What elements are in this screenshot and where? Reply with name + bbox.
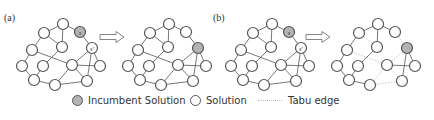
solution-node — [353, 61, 364, 72]
solution-node — [372, 42, 383, 53]
solution-node — [248, 28, 259, 39]
solution-node — [181, 27, 192, 38]
solution-node — [156, 80, 167, 91]
solution-node — [382, 60, 393, 71]
solution-node — [39, 28, 50, 39]
solution-node — [390, 27, 401, 38]
solution-node — [397, 76, 408, 87]
graph-b-before: ss' — [226, 19, 315, 91]
panel-label-a: (a) — [4, 12, 15, 23]
solution-node — [50, 80, 61, 91]
solution-node — [133, 45, 144, 56]
solution-node — [238, 75, 249, 86]
solution-node — [188, 76, 199, 87]
solution-node — [27, 45, 38, 56]
solution-node — [164, 19, 175, 30]
node-label: s' — [299, 45, 304, 52]
legend-item-solution: Solution — [190, 95, 247, 106]
node-label: s' — [90, 45, 95, 52]
transition-arrow-icon — [306, 32, 330, 43]
graph-a-after — [123, 19, 212, 91]
solution-node — [266, 42, 277, 53]
solution-node — [173, 60, 184, 71]
transition-arrow-icon — [100, 32, 124, 43]
solution-node — [410, 61, 421, 72]
solution-node — [67, 60, 78, 71]
graph-b-after — [332, 19, 421, 91]
solution-node — [163, 42, 174, 53]
solution-node — [58, 19, 69, 30]
solution-node — [226, 61, 237, 72]
solution-node — [144, 61, 155, 72]
solution-node — [259, 80, 270, 91]
solution-node — [342, 45, 353, 56]
solution-node — [95, 61, 106, 72]
legend-label-tabu: Tabu edge — [288, 95, 339, 106]
solution-node — [236, 45, 247, 56]
incumbent-node — [193, 43, 204, 54]
solution-node — [291, 76, 302, 87]
solution-node — [267, 19, 278, 30]
solution-node — [17, 61, 28, 72]
solution-node — [365, 80, 376, 91]
incumbent-node-icon — [72, 95, 83, 106]
solution-node — [373, 19, 384, 30]
solution-node — [135, 75, 146, 86]
solution-node — [38, 61, 49, 72]
solution-node — [354, 28, 365, 39]
solution-node — [304, 61, 315, 72]
solution-node — [123, 61, 134, 72]
solution-node — [82, 76, 93, 87]
solution-node — [57, 42, 68, 53]
solution-node — [276, 60, 287, 71]
legend-item-tabu: Tabu edge — [258, 95, 339, 106]
incumbent-node — [402, 43, 413, 54]
graph-a-before: ss' — [17, 19, 106, 91]
solution-node — [29, 75, 40, 86]
tabu-edge-icon — [258, 100, 282, 101]
legend-label-solution: Solution — [206, 95, 247, 106]
solution-node-icon — [190, 95, 201, 106]
solution-node — [344, 75, 355, 86]
legend-label-incumbent: Incumbent Solution — [88, 95, 186, 106]
legend-item-incumbent: Incumbent Solution — [72, 95, 186, 106]
solution-node — [332, 61, 343, 72]
panel-label-b: (b) — [213, 12, 225, 23]
solution-node — [247, 61, 258, 72]
solution-node — [145, 28, 156, 39]
solution-node — [201, 61, 212, 72]
legend: Incumbent Solution Solution Tabu edge — [0, 95, 434, 115]
